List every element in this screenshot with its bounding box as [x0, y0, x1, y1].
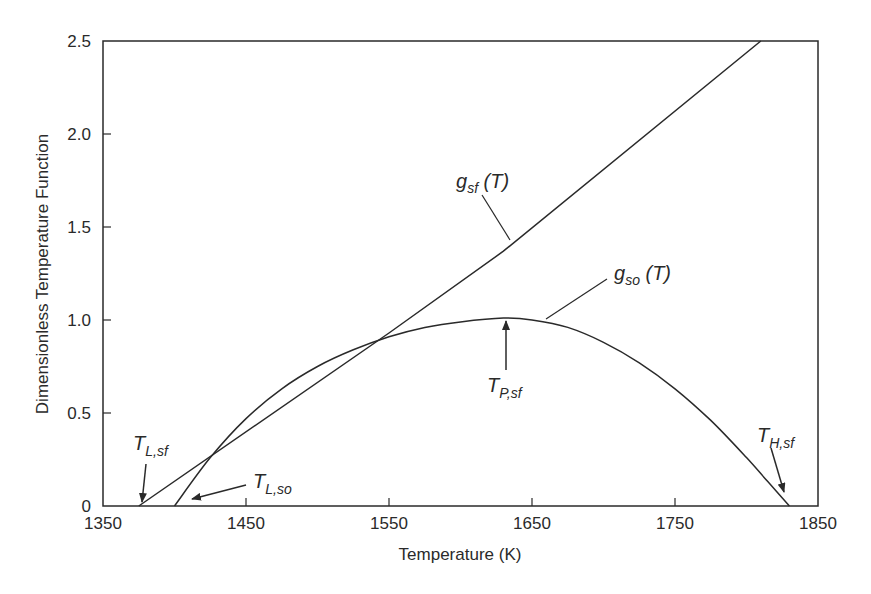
- x-axis-title: Temperature (K): [399, 545, 522, 564]
- annotation-g-so: gso (T): [546, 262, 671, 319]
- t-l-so-label: TL,so: [253, 470, 292, 497]
- y-tick-label: 1.5: [67, 218, 91, 237]
- y-tick-label: 2.0: [67, 125, 91, 144]
- y-axis-title: Dimensionless Temperature Function: [33, 134, 52, 414]
- x-tick-label: 1450: [227, 514, 265, 533]
- annotation-t-l-sf: TL,sf: [133, 432, 170, 502]
- x-tick-label: 1650: [513, 514, 551, 533]
- x-tick-label: 1750: [656, 514, 694, 533]
- t-l-sf-label: TL,sf: [133, 432, 170, 459]
- annotation-t-l-so: TL,so: [192, 470, 292, 499]
- leader-line-g-sf: [482, 195, 510, 240]
- annotation-t-p-sf: TP,sf: [487, 321, 524, 401]
- x-axis-ticks: 135014501550165017501850: [84, 498, 837, 533]
- y-axis-ticks: 00.51.01.52.02.5: [67, 32, 111, 516]
- y-tick-label: 0: [82, 497, 91, 516]
- x-tick-label: 1550: [370, 514, 408, 533]
- y-tick-label: 1.0: [67, 311, 91, 330]
- g-so-label: gso (T): [614, 262, 671, 288]
- x-tick-label: 1350: [84, 514, 122, 533]
- plot-frame: [103, 41, 818, 506]
- arrow-t-h-sf: [771, 448, 784, 492]
- y-tick-label: 2.5: [67, 32, 91, 51]
- t-h-sf-label: TH,sf: [757, 424, 796, 451]
- leader-line-g-so: [546, 279, 607, 319]
- g-sf-label: gsf (T): [456, 170, 509, 196]
- annotation-t-h-sf: TH,sf: [757, 424, 796, 492]
- series-g-so-curve: [175, 318, 790, 506]
- x-tick-label: 1850: [799, 514, 837, 533]
- y-tick-label: 0.5: [67, 404, 91, 423]
- annotation-g-sf: gsf (T): [456, 170, 510, 240]
- arrow-t-l-sf: [142, 464, 146, 502]
- chart: 135014501550165017501850 00.51.01.52.02.…: [0, 0, 871, 594]
- t-p-sf-label: TP,sf: [487, 374, 524, 401]
- arrow-t-l-so: [192, 485, 246, 499]
